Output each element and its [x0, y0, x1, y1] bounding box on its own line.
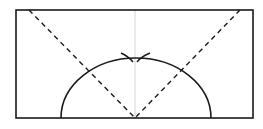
geometry-diagram — [0, 0, 263, 129]
background — [0, 0, 263, 129]
